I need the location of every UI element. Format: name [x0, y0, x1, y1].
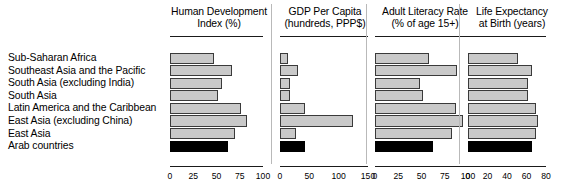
bar-row	[468, 90, 546, 103]
bar	[170, 141, 228, 152]
bar-row	[280, 65, 368, 78]
panel-title-line: Human Development	[165, 6, 273, 18]
panel-title: Adult Literacy Rate(% of age 15+)	[372, 6, 478, 31]
bar-row	[280, 128, 368, 141]
bar	[170, 65, 232, 76]
panel-title-line: (hundreds, PPP$)	[277, 18, 373, 30]
bar-row	[170, 128, 263, 141]
x-axis-tick-label: 0	[466, 170, 471, 182]
panel-header-rule	[375, 36, 468, 37]
bar-row	[375, 115, 468, 128]
panel-header-rule	[280, 36, 368, 37]
x-axis-ticks: 0255075100	[375, 170, 468, 182]
bar	[375, 115, 463, 126]
x-axis-tick-label: 40	[502, 170, 512, 182]
x-axis-line	[468, 166, 546, 167]
bar-row	[170, 140, 263, 153]
category-label-column: Sub-Saharan AfricaSoutheast Asia and the…	[8, 52, 168, 153]
x-axis-ticks: 050100150	[280, 170, 368, 182]
bar-row	[468, 128, 546, 141]
bar-row	[468, 115, 546, 128]
bar	[375, 103, 456, 114]
panel-header-rule	[468, 36, 546, 37]
x-axis-tick-label: 0	[168, 170, 173, 182]
bar	[468, 103, 536, 114]
panel-title-line: Life Expectancy	[466, 6, 558, 18]
bar	[170, 53, 214, 64]
x-axis-tick-label: 60	[522, 170, 532, 182]
category-label: East Asia	[8, 128, 168, 141]
panel-separator	[271, 4, 272, 164]
bar-row	[375, 128, 468, 141]
category-label: Latin America and the Caribbean	[8, 102, 168, 115]
x-axis-tick-label: 20	[483, 170, 493, 182]
bar	[468, 141, 532, 152]
panel-title-line: at Birth (years)	[466, 18, 558, 30]
bar-row	[468, 102, 546, 115]
panel-separator	[366, 4, 367, 164]
bar-row	[375, 65, 468, 78]
bar-row	[170, 90, 263, 103]
x-axis-line	[280, 166, 368, 167]
bar-row	[170, 102, 263, 115]
bar-row	[468, 52, 546, 65]
bar-row	[280, 102, 368, 115]
bar	[170, 115, 247, 126]
bar	[170, 103, 241, 114]
plot-area	[375, 52, 468, 153]
bar	[280, 65, 298, 76]
category-label: Arab countries	[8, 140, 168, 153]
bar-row	[280, 77, 368, 90]
x-axis-tick-label: 75	[440, 170, 450, 182]
x-axis-tick-label: 80	[541, 170, 551, 182]
bar-row	[375, 140, 468, 153]
bar	[468, 128, 536, 139]
x-axis-tick-label: 25	[393, 170, 403, 182]
panel-title: GDP Per Capita(hundreds, PPP$)	[277, 6, 373, 31]
bar	[170, 78, 222, 89]
bar	[468, 115, 538, 126]
bar-row	[170, 77, 263, 90]
x-axis-tick-label: 0	[278, 170, 283, 182]
bar	[375, 128, 452, 139]
bar-row	[468, 140, 546, 153]
bar	[280, 141, 305, 152]
x-axis-ticks: 020406080	[468, 170, 546, 182]
bar	[280, 103, 305, 114]
x-axis-line	[170, 166, 263, 167]
bar-row	[468, 65, 546, 78]
bar	[468, 53, 518, 64]
panel-title-line: (% of age 15+)	[372, 18, 478, 30]
bar	[468, 90, 528, 101]
x-axis-line	[375, 166, 468, 167]
x-axis-tick-label: 100	[256, 170, 270, 182]
bar	[468, 65, 532, 76]
bar	[280, 128, 296, 139]
panel-title-line: Index (%)	[165, 18, 273, 30]
bar-row	[280, 90, 368, 103]
bar	[170, 128, 235, 139]
bar	[280, 90, 290, 101]
bar	[468, 78, 528, 89]
category-label: South Asia (excluding India)	[8, 77, 168, 90]
x-axis-tick-label: 50	[305, 170, 315, 182]
panel-title: Life Expectancyat Birth (years)	[466, 6, 558, 31]
bar-row	[280, 52, 368, 65]
category-label: Southeast Asia and the Pacific	[8, 65, 168, 78]
x-axis-tick-label: 75	[235, 170, 245, 182]
bar	[375, 78, 420, 89]
bar	[375, 65, 457, 76]
bar	[375, 141, 433, 152]
panel-title-line: Adult Literacy Rate	[372, 6, 478, 18]
bar-row	[280, 140, 368, 153]
bar	[375, 90, 423, 101]
bar-row	[280, 115, 368, 128]
bar-row	[375, 102, 468, 115]
category-label: South Asia	[8, 90, 168, 103]
bar-row	[375, 77, 468, 90]
x-axis-tick-label: 50	[212, 170, 222, 182]
plot-area	[468, 52, 546, 153]
bar	[280, 78, 290, 89]
bar	[280, 53, 288, 64]
x-axis-tick-label: 50	[417, 170, 427, 182]
